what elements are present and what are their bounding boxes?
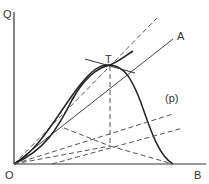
dashed-line-upper-left [64,128,110,146]
label-b: B [194,169,201,181]
label-q: Q [3,8,12,20]
label-t: T [105,53,112,65]
diagram-canvas: Q B O T A (p) [0,0,209,184]
label-p: (p) [165,92,178,104]
label-a: A [177,30,185,42]
ray-oa [14,39,173,164]
label-o: O [5,169,14,181]
